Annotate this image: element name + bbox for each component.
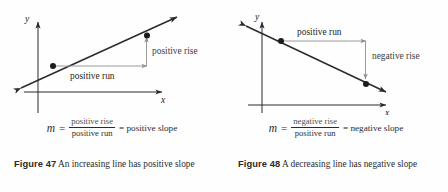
figure-48-formula: m = negative rise positive run = negativ… bbox=[224, 117, 448, 139]
fraction-numerator: positive rise bbox=[69, 117, 115, 127]
figure-48-panel: y x positive run negative rise m = negat… bbox=[224, 0, 448, 192]
figure-47-caption: Figure 47 An increasing line has positiv… bbox=[14, 158, 214, 171]
point-lower bbox=[363, 81, 369, 87]
figure-caption-text: An increasing line has positive slope bbox=[58, 159, 195, 169]
point-upper bbox=[278, 38, 284, 44]
formula-result: = negative slope bbox=[343, 123, 403, 133]
equals-sign: = bbox=[59, 122, 65, 134]
run-label: positive run bbox=[70, 71, 115, 81]
figure-48-graph: y x positive run negative rise bbox=[224, 0, 448, 115]
x-axis-label: x bbox=[160, 95, 166, 105]
formula-result: = positive slope bbox=[119, 123, 177, 133]
figure-number: Figure 47 bbox=[14, 159, 56, 169]
figure-number: Figure 48 bbox=[238, 159, 280, 169]
slope-fraction: positive rise positive run bbox=[69, 117, 115, 139]
run-label: positive run bbox=[297, 27, 342, 37]
x-axis-label: x bbox=[384, 108, 390, 115]
slope-variable: m bbox=[47, 122, 55, 134]
figure-47-formula: m = positive rise positive run = positiv… bbox=[0, 117, 224, 139]
fraction-numerator: negative rise bbox=[291, 117, 339, 127]
slope-figures-page: y x positive run positive rise m = posit… bbox=[0, 0, 448, 192]
figure-47-graph: y x positive run positive rise bbox=[0, 0, 224, 115]
figure-48-caption: Figure 48 A decreasing line has negative… bbox=[238, 158, 438, 171]
slope-variable: m bbox=[269, 122, 277, 134]
figure-47-panel: y x positive run positive rise m = posit… bbox=[0, 0, 224, 192]
point-lower bbox=[50, 63, 56, 69]
point-upper bbox=[144, 33, 150, 39]
rise-label: positive rise bbox=[152, 46, 198, 56]
fraction-denominator: positive run bbox=[70, 128, 115, 138]
equals-sign: = bbox=[281, 122, 287, 134]
slope-fraction: negative rise positive run bbox=[291, 117, 339, 139]
y-axis-label: y bbox=[254, 12, 260, 22]
rise-label: negative rise bbox=[372, 51, 420, 61]
figure-caption-text: A decreasing line has negative slope bbox=[282, 159, 417, 169]
y-axis-label: y bbox=[24, 14, 30, 24]
fraction-denominator: positive run bbox=[293, 128, 338, 138]
